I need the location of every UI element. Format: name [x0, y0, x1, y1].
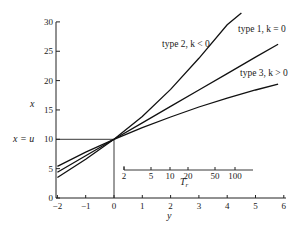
- x-tick-label: −1: [81, 201, 91, 211]
- y-axis-label: x: [29, 98, 35, 109]
- x-tick-label: 5: [253, 201, 258, 211]
- y-tick-label: 10: [44, 134, 54, 144]
- label-type1: type 1, k = 0: [238, 24, 286, 34]
- curve-2: [57, 44, 278, 172]
- y-tick-label: 15: [44, 105, 54, 115]
- y-tick-label: 0: [49, 193, 54, 203]
- y-tick-label: 30: [44, 17, 54, 27]
- x-axis-label: y: [166, 210, 172, 221]
- curve-3: [57, 84, 278, 166]
- x-tick-label: 0: [112, 201, 117, 211]
- chart: −2−10123456051015202530 25102050100 type…: [0, 0, 304, 232]
- tr-tick-label: 2: [122, 171, 127, 181]
- tr-tick-label: 5: [149, 171, 154, 181]
- x-tick-label: 6: [282, 201, 287, 211]
- x-tick-label: 1: [140, 201, 145, 211]
- tr-tick-label: 100: [228, 171, 242, 181]
- label-type3: type 3, k > 0: [240, 68, 288, 78]
- tr-tick-label: 50: [211, 171, 221, 181]
- x-tick-label: 4: [225, 201, 230, 211]
- y-tick-label: 20: [44, 76, 54, 86]
- tr-tick-label: 10: [166, 171, 176, 181]
- y-tick-label: 5: [49, 164, 54, 174]
- x-equals-u-label: x = u: [12, 133, 34, 144]
- label-type2: type 2, k < 0: [162, 39, 210, 49]
- x-tick-label: −2: [53, 201, 63, 211]
- x-tick-label: 3: [197, 201, 202, 211]
- curves: [57, 13, 278, 177]
- y-tick-label: 25: [44, 46, 54, 56]
